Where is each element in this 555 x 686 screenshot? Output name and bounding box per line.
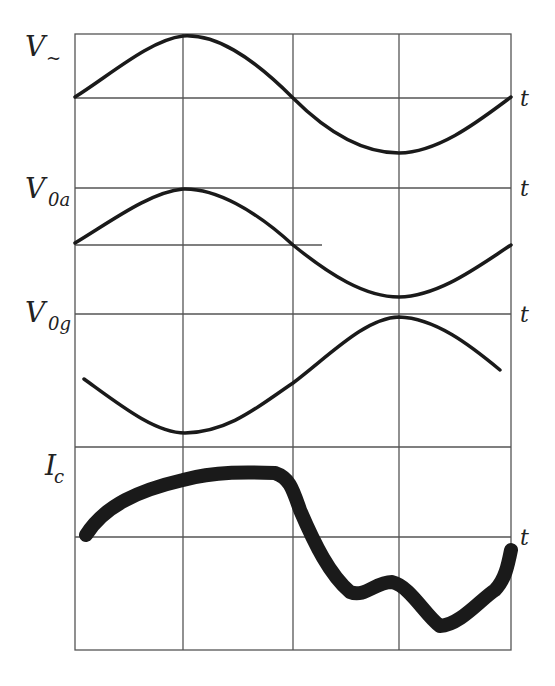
label-sub: c (54, 466, 64, 487)
grid (75, 34, 511, 650)
label-main: V (25, 172, 48, 205)
time-axis-label-v-ac: t (520, 86, 529, 111)
label-main: V (25, 30, 48, 63)
label-i-c: I c (44, 449, 64, 487)
label-sub: 0a (48, 189, 70, 210)
time-axis-label-v-0g: t (520, 302, 529, 327)
trace-i-c (86, 472, 511, 626)
label-sub: 0g (48, 313, 71, 334)
trace-v-0g (84, 317, 500, 433)
label-sub: ~ (46, 47, 61, 68)
label-v-0g: V 0g (25, 296, 71, 334)
waveform-diagram: V ~ V 0a V 0g I c t t t t (0, 0, 555, 686)
label-v-ac: V ~ (25, 30, 61, 68)
label-main: V (25, 296, 48, 329)
time-axis-label-i-c: t (520, 525, 529, 550)
label-v-0a: V 0a (25, 172, 70, 210)
time-axis-label-v-0a: t (520, 176, 529, 201)
